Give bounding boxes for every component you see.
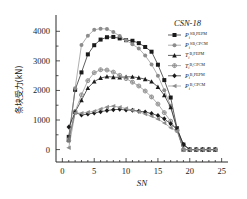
- data-point: [156, 63, 160, 67]
- data-point: [143, 89, 147, 93]
- y-tick-label: 4000: [33, 26, 50, 36]
- data-point: [149, 79, 154, 83]
- data-point: [111, 30, 115, 34]
- data-point: [172, 73, 176, 78]
- legend-item-4[interactable]: TiB,CPCM: [168, 62, 205, 71]
- data-point: [105, 68, 109, 72]
- chart-title: CSN-18: [174, 18, 202, 28]
- x-tick-label: 15: [154, 166, 163, 176]
- data-point: [86, 52, 90, 56]
- data-point: [105, 27, 109, 31]
- data-point: [173, 33, 177, 37]
- x-tick-label: 20: [186, 166, 195, 176]
- data-point: [156, 74, 160, 78]
- chart-container: 010002000300040000510152025SN条块受力(kN)CSN…: [0, 0, 247, 199]
- data-point: [66, 146, 70, 150]
- data-point: [137, 84, 141, 88]
- legend-item-6[interactable]: PiB,CPCM: [168, 82, 206, 91]
- data-point: [143, 45, 147, 49]
- data-point: [172, 84, 176, 88]
- y-tick-label: 2000: [33, 85, 50, 95]
- data-point: [124, 38, 128, 42]
- legend-item-2[interactable]: PiSB,CPCM: [168, 41, 208, 50]
- data-point: [92, 43, 96, 47]
- x-axis-title: SN: [137, 178, 149, 188]
- y-axis-title: 条块受力(kN): [14, 66, 24, 115]
- data-point: [137, 41, 141, 45]
- data-point: [86, 34, 90, 38]
- x-tick-label: 5: [92, 166, 96, 176]
- data-point: [143, 54, 147, 58]
- legend-label-6: PiB,CPCM: [184, 82, 206, 91]
- data-point: [99, 68, 103, 72]
- legend-item-3[interactable]: TiB,PEPM: [168, 51, 205, 60]
- data-point: [173, 43, 177, 47]
- data-point: [156, 102, 160, 106]
- series-line: [69, 29, 216, 150]
- legend-label-2: PiSB,CPCM: [184, 41, 208, 50]
- data-point: [118, 73, 122, 77]
- series-6: [66, 104, 217, 152]
- data-point: [73, 86, 77, 90]
- data-point: [99, 38, 103, 42]
- data-point: [169, 96, 173, 100]
- data-point: [79, 93, 83, 97]
- data-point: [79, 43, 83, 47]
- data-point: [92, 79, 97, 83]
- y-tick-label: 3000: [33, 56, 50, 66]
- data-point: [99, 27, 103, 31]
- data-point: [150, 50, 154, 54]
- x-tick-label: 10: [122, 166, 131, 176]
- legend-label-4: TiB,CPCM: [185, 62, 205, 71]
- data-point: [162, 78, 166, 82]
- data-point: [92, 28, 96, 32]
- data-point: [79, 70, 83, 74]
- data-point: [111, 70, 115, 74]
- data-point: [130, 39, 134, 43]
- data-point: [150, 62, 154, 66]
- x-tick-label: 25: [217, 166, 226, 176]
- x-tick-label: 0: [60, 166, 64, 176]
- data-point: [150, 95, 154, 99]
- data-point: [92, 71, 96, 75]
- series-line: [69, 106, 216, 149]
- legend-label-1: PiSB,PEPM: [184, 31, 207, 40]
- data-point: [137, 46, 141, 50]
- data-point: [173, 64, 177, 68]
- data-point: [124, 77, 128, 81]
- data-point: [86, 79, 90, 83]
- data-point: [105, 35, 109, 39]
- y-tick-label: 0: [46, 145, 50, 155]
- data-point: [118, 34, 122, 38]
- legend-label-3: TiB,PEPM: [185, 51, 205, 60]
- legend-label-5: PiB,PEPM: [184, 72, 205, 81]
- data-point: [162, 121, 166, 125]
- series-4: [67, 68, 218, 152]
- legend-item-1[interactable]: PiSB,PEPM: [168, 31, 207, 40]
- legend-item-5[interactable]: PiB,PEPM: [168, 72, 205, 81]
- y-tick-label: 1000: [33, 115, 50, 125]
- data-point: [162, 111, 166, 115]
- series-line: [69, 109, 216, 149]
- data-point: [130, 80, 134, 84]
- data-point: [111, 35, 115, 39]
- line-chart: 010002000300040000510152025SN条块受力(kN)CSN…: [0, 0, 247, 199]
- data-point: [162, 88, 166, 92]
- data-point: [162, 116, 166, 121]
- data-point: [130, 42, 134, 46]
